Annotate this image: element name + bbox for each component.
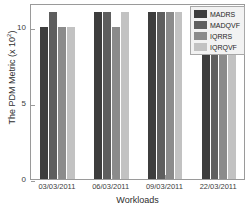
y-tick-mark — [31, 105, 35, 106]
y-tick-mark — [31, 29, 35, 30]
bar-madrs-2 — [148, 12, 156, 179]
bar-madrs-1 — [94, 12, 102, 179]
legend-item-iqrrs[interactable]: IQRRS — [194, 31, 242, 41]
bar-group — [148, 5, 183, 179]
chart-screenshot: 0510 The PDM Metric (x 102) 03/03/201106… — [0, 0, 250, 210]
x-axis: 03/03/201106/03/201109/03/201122/03/2011 — [30, 182, 245, 196]
bar-iqrqvf-2 — [175, 12, 183, 179]
legend-swatch-icon — [194, 21, 207, 29]
x-axis-title: Workloads — [30, 195, 245, 205]
legend-label: IQRQVF — [210, 44, 237, 51]
legend-label: IQRRS — [210, 33, 232, 40]
y-axis-title-exponent: 2 — [6, 34, 12, 37]
legend-item-madrs[interactable]: MADRS — [194, 9, 242, 19]
y-axis-title: The PDM Metric (x 102) — [6, 13, 17, 143]
legend-swatch-icon — [194, 43, 207, 51]
x-tick-mark — [219, 175, 220, 179]
bar-iqrqvf-0 — [67, 27, 75, 179]
legend-swatch-icon — [194, 32, 207, 40]
x-tick-label: 22/03/2011 — [200, 182, 237, 191]
x-tick-mark — [58, 175, 59, 179]
legend-label: MADQVF — [210, 22, 240, 29]
y-tick-label: 5 — [22, 100, 26, 108]
legend-label: MADRS — [210, 11, 235, 18]
x-tick-mark — [165, 175, 166, 179]
y-tick-label: 0 — [22, 176, 26, 184]
x-tick-label: 06/03/2011 — [92, 182, 129, 191]
bar-madrs-0 — [40, 27, 48, 179]
bar-madqvf-2 — [157, 12, 165, 179]
bar-iqrrs-1 — [112, 27, 120, 179]
bar-iqrrs-2 — [166, 12, 174, 179]
y-tick-label: 10 — [17, 24, 26, 32]
legend-swatch-icon — [194, 10, 207, 18]
y-axis-title-text: The PDM Metric (x 10 — [7, 37, 17, 125]
y-axis-title-suffix: ) — [7, 31, 17, 34]
bar-group — [94, 5, 129, 179]
bar-iqrqvf-1 — [121, 12, 129, 179]
x-tick-label: 03/03/2011 — [38, 182, 75, 191]
chart-legend: MADRSMADQVFIQRRSIQRQVF — [190, 6, 245, 55]
x-tick-mark — [112, 175, 113, 179]
bar-group — [40, 5, 75, 179]
bar-iqrrs-0 — [58, 27, 66, 179]
bar-madqvf-1 — [103, 12, 111, 179]
bar-madqvf-0 — [49, 12, 57, 179]
legend-item-iqrqvf[interactable]: IQRQVF — [194, 42, 242, 52]
x-tick-label: 09/03/2011 — [146, 182, 183, 191]
legend-item-madqvf[interactable]: MADQVF — [194, 20, 242, 30]
